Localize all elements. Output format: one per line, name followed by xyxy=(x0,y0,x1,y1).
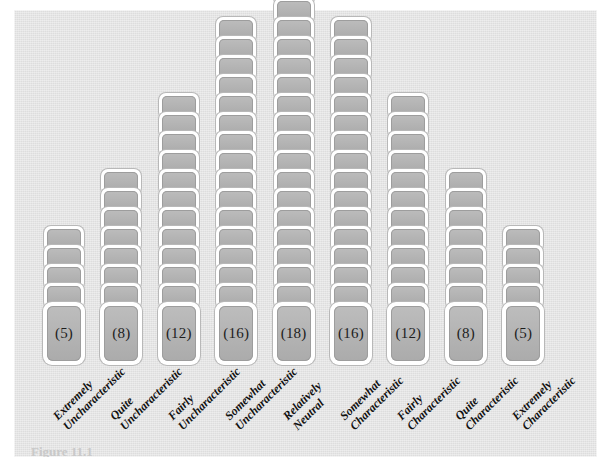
q-sort-card-count[interactable]: (16) xyxy=(330,302,372,365)
chart-plot-area: (5)ExtremelyUncharacteristic(8)QuiteUnch… xyxy=(14,10,597,457)
column-count-label: (5) xyxy=(55,326,73,341)
figure-caption: Figure 11.1 xyxy=(31,445,251,457)
q-sort-card-face: (8) xyxy=(104,306,138,361)
q-sort-card-face: (16) xyxy=(219,306,253,361)
chart-column[interactable]: (5) xyxy=(42,226,86,365)
column-count-label: (16) xyxy=(223,326,249,341)
chart-column[interactable]: (8) xyxy=(444,169,488,365)
figure-panel: (5)ExtremelyUncharacteristic(8)QuiteUnch… xyxy=(14,10,597,457)
q-sort-card-face: (12) xyxy=(391,306,425,361)
column-count-label: (8) xyxy=(112,326,130,341)
q-sort-card-count[interactable]: (8) xyxy=(445,302,487,365)
chart-column[interactable]: (5) xyxy=(501,226,545,365)
column-count-label: (5) xyxy=(514,326,532,341)
q-sort-figure: (5)ExtremelyUncharacteristic(8)QuiteUnch… xyxy=(0,0,611,473)
q-sort-card-face: (12) xyxy=(162,306,196,361)
q-sort-card-face: (16) xyxy=(334,306,368,361)
q-sort-card-face: (5) xyxy=(506,306,540,361)
q-sort-card-count[interactable]: (5) xyxy=(502,302,544,365)
chart-column[interactable]: (8) xyxy=(99,169,143,365)
column-count-label: (12) xyxy=(166,326,192,341)
column-count-label: (12) xyxy=(395,326,421,341)
q-sort-card-count[interactable]: (16) xyxy=(215,302,257,365)
chart-column[interactable]: (16) xyxy=(329,17,373,365)
column-count-label: (8) xyxy=(457,326,475,341)
q-sort-card-count[interactable]: (12) xyxy=(387,302,429,365)
chart-column[interactable]: (12) xyxy=(157,93,201,365)
column-count-label: (16) xyxy=(338,326,364,341)
q-sort-card-face: (8) xyxy=(449,306,483,361)
q-sort-card-face: (18) xyxy=(277,306,311,361)
q-sort-card-count[interactable]: (18) xyxy=(273,302,315,365)
q-sort-card-count[interactable]: (8) xyxy=(100,302,142,365)
chart-column[interactable]: (18) xyxy=(272,0,316,365)
column-count-label: (18) xyxy=(281,326,307,341)
q-sort-card-face: (5) xyxy=(47,306,81,361)
q-sort-card-count[interactable]: (5) xyxy=(43,302,85,365)
chart-column[interactable]: (12) xyxy=(386,93,430,365)
chart-column[interactable]: (16) xyxy=(214,17,258,365)
q-sort-card-count[interactable]: (12) xyxy=(158,302,200,365)
